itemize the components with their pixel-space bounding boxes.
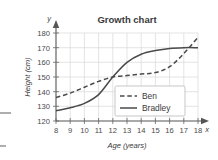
y-tick-labels: 180 170 160 150 140 130 120 [37,29,50,126]
y-tick-label: 140 [37,88,50,97]
x-tick-label: 16 [165,126,173,135]
y-tick-label: 170 [37,44,50,53]
y-axis-label: Height (cm) [23,57,32,97]
x-tick-label: 8 [54,126,58,135]
growth-chart-figure: Growth chart y x 180 170 160 150 140 130… [0,0,218,160]
x-tick-label: 12 [109,126,117,135]
x-tick-label: 13 [123,126,131,135]
x-axis-label: Age (years) [106,141,147,150]
x-tick-labels: 8 9 10 11 12 13 14 15 16 17 18 [54,126,202,135]
y-axis-letter: y [46,14,52,23]
legend-label-ben: Ben [142,91,157,101]
x-tick-label: 9 [68,126,72,135]
y-tick-label: 150 [37,73,50,82]
x-tick-label: 18 [194,126,202,135]
chart-svg: Growth chart y x 180 170 160 150 140 130… [0,0,218,160]
x-tick-label: 15 [151,126,159,135]
x-tick-label: 10 [80,126,88,135]
y-tick-label: 160 [37,58,50,67]
y-tick-label: 120 [37,117,50,126]
legend-label-bradley: Bradley [142,103,171,113]
y-tick-label: 130 [37,102,50,111]
x-tick-label: 17 [180,126,188,135]
x-tick-label: 14 [137,126,145,135]
x-tick-label: 11 [95,126,103,135]
x-axis-arrow [201,118,209,124]
y-axis-arrow [53,20,59,28]
chart-legend: Ben Bradley [115,86,185,116]
x-axis-letter: x [204,125,209,134]
y-tick-label: 180 [37,29,50,38]
chart-title: Growth chart [97,14,157,25]
